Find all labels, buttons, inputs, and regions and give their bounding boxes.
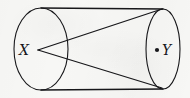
point-y-label: Y xyxy=(162,43,171,57)
point-x-label: X xyxy=(19,43,29,57)
cylinder-bottom-edge xyxy=(41,89,163,90)
cylinder-figure: X Y xyxy=(0,0,190,98)
cylinder-top-edge xyxy=(41,8,163,9)
point-y-dot xyxy=(155,48,159,52)
